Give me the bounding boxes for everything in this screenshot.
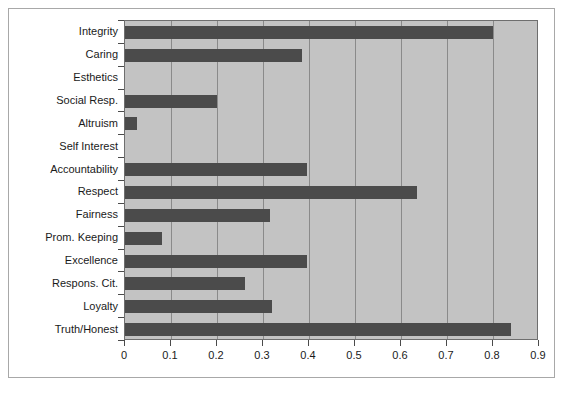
x-axis-tick-label: 0.9 xyxy=(518,348,558,362)
x-axis-tick xyxy=(538,340,539,346)
bar[interactable] xyxy=(125,186,417,199)
x-axis-tick-label: 0.7 xyxy=(426,348,466,362)
y-axis-label: Respect xyxy=(0,185,118,197)
y-axis-label: Truth/Honest xyxy=(0,323,118,335)
y-axis-label: Esthetics xyxy=(0,71,118,83)
y-axis-label: Accountability xyxy=(0,163,118,175)
y-axis-category-labels: IntegrityCaringEstheticsSocial Resp.Altr… xyxy=(0,20,118,340)
x-axis-tick-label: 0.8 xyxy=(472,348,512,362)
x-axis-tick xyxy=(124,340,125,346)
bar[interactable] xyxy=(125,300,272,313)
x-axis-tick xyxy=(308,340,309,346)
bar[interactable] xyxy=(125,163,307,176)
bar-row xyxy=(125,21,537,44)
x-axis-tick xyxy=(170,340,171,346)
x-axis-tick-label: 0.2 xyxy=(196,348,236,362)
x-axis-ticks xyxy=(124,340,538,346)
bar[interactable] xyxy=(125,209,270,222)
bar-row xyxy=(125,135,537,158)
bar-row xyxy=(125,204,537,227)
y-axis-label: Prom. Keeping xyxy=(0,231,118,243)
x-axis-tick xyxy=(400,340,401,346)
y-axis-label: Loyalty xyxy=(0,300,118,312)
bar-row xyxy=(125,318,537,340)
bar-row xyxy=(125,272,537,295)
bar-row xyxy=(125,181,537,204)
bar-row xyxy=(125,67,537,90)
bar-row xyxy=(125,44,537,67)
y-axis-label: Fairness xyxy=(0,208,118,220)
bar-row xyxy=(125,90,537,113)
x-axis-tick-label: 0.4 xyxy=(288,348,328,362)
x-axis-tick xyxy=(492,340,493,346)
bar[interactable] xyxy=(125,117,137,130)
bar-row xyxy=(125,295,537,318)
y-axis-label: Social Resp. xyxy=(0,94,118,106)
bar[interactable] xyxy=(125,26,493,39)
bar[interactable] xyxy=(125,277,245,290)
y-axis-label: Caring xyxy=(0,48,118,60)
x-axis-tick-label: 0.5 xyxy=(334,348,374,362)
x-axis-tick-label: 0.1 xyxy=(150,348,190,362)
y-axis-label: Respons. Cit. xyxy=(0,277,118,289)
x-axis-tick-label: 0.6 xyxy=(380,348,420,362)
bar-row xyxy=(125,112,537,135)
y-axis-label: Altruism xyxy=(0,117,118,129)
plot-area xyxy=(124,20,538,340)
bar-row xyxy=(125,158,537,181)
bar-row xyxy=(125,250,537,273)
x-axis-tick-label: 0.3 xyxy=(242,348,282,362)
x-axis-tick xyxy=(354,340,355,346)
y-axis-label: Excellence xyxy=(0,254,118,266)
x-axis-tick xyxy=(216,340,217,346)
y-axis-label: Integrity xyxy=(0,25,118,37)
bar[interactable] xyxy=(125,232,162,245)
x-axis-tick xyxy=(446,340,447,346)
bar-row xyxy=(125,227,537,250)
bar[interactable] xyxy=(125,255,307,268)
x-axis-tick xyxy=(262,340,263,346)
x-axis-tick-label: 0 xyxy=(104,348,144,362)
bar[interactable] xyxy=(125,95,217,108)
bar[interactable] xyxy=(125,323,511,336)
bar[interactable] xyxy=(125,49,302,62)
x-axis-tick-labels: 00.10.20.30.40.50.60.70.80.9 xyxy=(0,348,570,364)
chart-figure: IntegrityCaringEstheticsSocial Resp.Altr… xyxy=(0,0,570,395)
y-axis-label: Self Interest xyxy=(0,140,118,152)
